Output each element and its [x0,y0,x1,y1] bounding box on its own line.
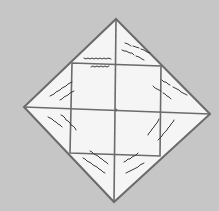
diagram-canvas [0,0,219,211]
center-point [115,109,118,112]
fortune-teller-diagram [0,0,219,211]
